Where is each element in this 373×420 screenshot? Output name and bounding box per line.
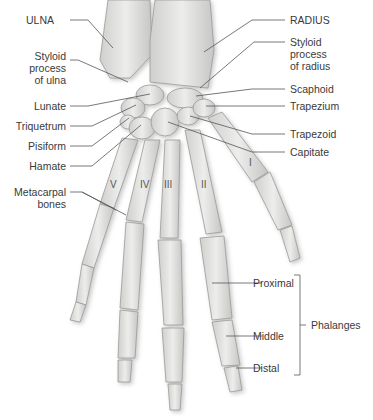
label-metacarpal-bones: Metacarpal bones xyxy=(4,186,66,210)
label-proximal-phalanx: Proximal xyxy=(253,277,294,289)
svg-text:II: II xyxy=(201,179,207,190)
label-lunate: Lunate xyxy=(20,100,66,112)
label-triquetrum: Triquetrum xyxy=(8,120,66,132)
label-phalanges: Phalanges xyxy=(311,319,361,331)
trapezium-bone xyxy=(193,99,215,117)
label-styloid-process-of-ulna: Styloid process of ulna xyxy=(24,50,66,86)
label-hamate: Hamate xyxy=(20,160,66,172)
capitate-bone xyxy=(151,108,179,136)
label-radius: RADIUS xyxy=(290,14,330,26)
label-distal-phalanx: Distal xyxy=(253,362,279,374)
label-middle-phalanx: Middle xyxy=(253,330,284,342)
label-scaphoid: Scaphoid xyxy=(290,83,334,95)
label-trapezium: Trapezium xyxy=(290,100,339,112)
label-capitate: Capitate xyxy=(290,146,329,158)
triquetrum-bone xyxy=(121,98,145,118)
svg-text:IV: IV xyxy=(140,179,150,190)
label-pisiform: Pisiform xyxy=(20,140,66,152)
radius-bone xyxy=(150,0,214,88)
label-trapezoid: Trapezoid xyxy=(290,128,336,140)
svg-text:I: I xyxy=(249,157,252,168)
label-styloid-process-of-radius: Styloid process of radius xyxy=(290,36,330,72)
ulna-bone xyxy=(100,0,152,78)
label-ulna: ULNA xyxy=(26,14,54,26)
svg-text:V: V xyxy=(110,179,117,190)
svg-text:III: III xyxy=(164,179,172,190)
